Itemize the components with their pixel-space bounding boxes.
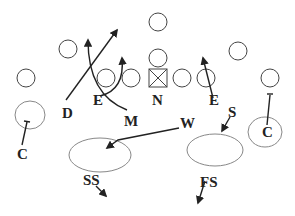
- label-d: D: [62, 105, 73, 121]
- offense-player-top: [149, 13, 167, 31]
- offense-player-wide-right: [261, 69, 279, 87]
- defense-labels: D E M N E W S C C SS FS: [17, 92, 273, 190]
- left-flat-zone: [15, 101, 45, 129]
- offense-player-guard-l1: [122, 69, 140, 87]
- label-m: M: [124, 113, 138, 129]
- offense-player-wide-left: [17, 69, 35, 87]
- e-left-inside-arrow: [100, 58, 122, 96]
- c-left-tick: [24, 121, 30, 122]
- label-e-right: E: [209, 92, 219, 108]
- coverage-zones: [15, 101, 282, 172]
- offense-formation: [17, 13, 279, 87]
- label-s: S: [228, 104, 236, 120]
- play-diagram: D E M N E W S C C SS FS: [0, 0, 295, 216]
- w-drop-arrow: [107, 128, 179, 148]
- strong-hook-zone: [69, 138, 131, 172]
- weak-hook-zone: [187, 134, 243, 166]
- d-rush-arrow: [66, 30, 117, 100]
- label-c-left: C: [17, 146, 28, 162]
- label-n: N: [152, 92, 163, 108]
- offense-player-right-back: [229, 42, 247, 60]
- c-left-line: [22, 122, 27, 145]
- offense-player-guard-r1: [173, 69, 191, 87]
- c-right-line: [267, 95, 270, 125]
- offense-player-guard-l2: [97, 69, 115, 87]
- label-fs: FS: [200, 174, 218, 190]
- label-e-left: E: [93, 92, 103, 108]
- offense-player-qb: [149, 49, 167, 67]
- label-ss: SS: [83, 172, 100, 188]
- offense-player-left-back: [59, 40, 77, 58]
- label-w: W: [180, 115, 195, 131]
- label-c-right: C: [262, 124, 273, 140]
